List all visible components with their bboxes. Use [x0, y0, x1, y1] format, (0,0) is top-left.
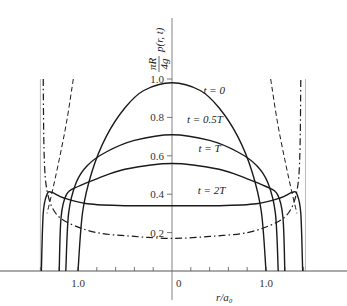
x-axis-label: r/a₀: [216, 291, 233, 303]
chart-canvas: 1.001.0 0.20.40.60.81.0 t = 0t = 0.5Tt =…: [0, 0, 347, 306]
x-tick-label: 0: [176, 277, 182, 289]
y-tick-label: 0.6: [150, 150, 164, 162]
y-axis-label: πR 4g p(r, t): [146, 27, 170, 72]
y-tick-label: 0.8: [150, 111, 164, 123]
curve-dashed-right-: [271, 79, 297, 213]
curve-dashed: [47, 79, 73, 213]
y-tick-label: 0.2: [150, 227, 164, 239]
y-axis-label-fraction-num: πR: [146, 58, 158, 71]
y-axis-label-fraction-den: 4g: [158, 58, 170, 70]
y-ticks: 0.20.40.60.81.0: [150, 73, 172, 239]
y-axis-label-expr: p(r, t): [153, 27, 166, 53]
y-tick-label: 0.4: [150, 188, 164, 200]
x-tick-label: 1.0: [71, 277, 85, 289]
curve-label: t = 0: [204, 84, 226, 96]
x-tick-label: 1.0: [259, 277, 273, 289]
axes: 1.001.0 0.20.40.60.81.0: [0, 18, 347, 300]
curve-label: t = 2T: [198, 184, 226, 196]
curve-label: t = T: [199, 142, 222, 154]
curve-label: t = 0.5T: [187, 113, 224, 125]
